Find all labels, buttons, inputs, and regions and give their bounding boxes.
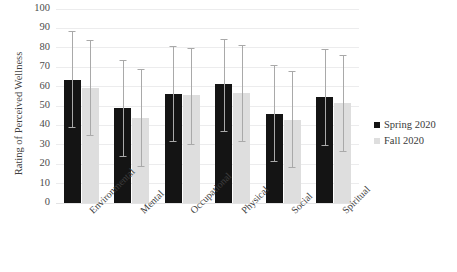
x-axis-label-physical: Physical bbox=[239, 208, 247, 216]
legend-item-spring-2020[interactable]: Spring 2020 bbox=[374, 120, 457, 131]
plot-area bbox=[56, 9, 359, 203]
error-bar-cap-lower bbox=[271, 161, 278, 162]
error-bar-cap-upper bbox=[220, 39, 227, 40]
gridline bbox=[56, 9, 359, 10]
error-bar-cap-upper bbox=[69, 31, 76, 32]
error-bar-cap-lower bbox=[238, 141, 245, 142]
error-bar-cap-lower bbox=[170, 141, 177, 142]
x-axis-label-mental: Mental bbox=[138, 208, 146, 216]
error-bar-line bbox=[90, 40, 91, 136]
chart-legend: Spring 2020Fall 2020 bbox=[374, 120, 457, 151]
x-axis-label-social: Social bbox=[289, 208, 297, 216]
error-bar-spiritual-fall-2020 bbox=[334, 55, 351, 152]
y-axis-tick-label: 0 bbox=[8, 197, 50, 208]
error-bar-line bbox=[173, 46, 174, 142]
error-bar-cap-lower bbox=[289, 167, 296, 168]
error-bar-line bbox=[292, 71, 293, 168]
y-axis-tick-label: 40 bbox=[8, 119, 50, 130]
clipped-chart-title bbox=[0, 0, 457, 3]
legend-swatch-icon bbox=[374, 138, 380, 144]
error-bar-mental-spring-2020 bbox=[114, 60, 131, 157]
error-bar-cap-upper bbox=[238, 45, 245, 46]
y-axis-tick-label: 90 bbox=[8, 22, 50, 33]
error-bar-cap-lower bbox=[321, 145, 328, 146]
error-bar-cap-lower bbox=[87, 135, 94, 136]
gridline bbox=[56, 125, 359, 126]
error-bar-line bbox=[72, 31, 73, 128]
x-axis-label-environmental: Environmental bbox=[87, 208, 95, 216]
legend-label: Fall 2020 bbox=[384, 136, 424, 147]
y-axis-title: Rating of Perceived Wellness bbox=[13, 34, 24, 194]
error-bar-social-spring-2020 bbox=[266, 65, 283, 162]
error-bar-line bbox=[343, 55, 344, 152]
error-bar-occupational-fall-2020 bbox=[183, 48, 200, 145]
error-bar-cap-lower bbox=[339, 151, 346, 152]
error-bar-cap-lower bbox=[188, 144, 195, 145]
error-bar-cap-lower bbox=[69, 127, 76, 128]
error-bar-cap-lower bbox=[119, 156, 126, 157]
legend-item-fall-2020[interactable]: Fall 2020 bbox=[374, 136, 457, 147]
gridline bbox=[56, 28, 359, 29]
y-axis-tick-label: 30 bbox=[8, 139, 50, 150]
y-axis-tick-label: 100 bbox=[8, 3, 50, 14]
x-axis-label-spiritual: Spiritual bbox=[340, 208, 348, 216]
legend-swatch-icon bbox=[374, 122, 380, 128]
error-bar-spiritual-spring-2020 bbox=[316, 49, 333, 146]
x-axis-label-occupational: Occupational bbox=[188, 208, 196, 216]
error-bar-cap-upper bbox=[119, 60, 126, 61]
error-bar-occupational-spring-2020 bbox=[165, 46, 182, 142]
error-bar-physical-fall-2020 bbox=[233, 45, 250, 142]
error-bar-cap-upper bbox=[137, 69, 144, 70]
error-bar-cap-upper bbox=[170, 46, 177, 47]
error-bar-cap-upper bbox=[289, 71, 296, 72]
y-axis-tick-label: 50 bbox=[8, 100, 50, 111]
gridline bbox=[56, 67, 359, 68]
y-axis-tick-label: 80 bbox=[8, 42, 50, 53]
gridline bbox=[56, 106, 359, 107]
error-bar-cap-upper bbox=[87, 40, 94, 41]
gridline bbox=[56, 86, 359, 87]
error-bar-line bbox=[141, 69, 142, 167]
error-bar-line bbox=[242, 45, 243, 142]
gridline bbox=[56, 183, 359, 184]
gridline bbox=[56, 47, 359, 48]
y-axis-tick-label: 10 bbox=[8, 178, 50, 189]
y-axis-tick-label: 20 bbox=[8, 158, 50, 169]
y-axis-tick-label: 70 bbox=[8, 61, 50, 72]
error-bar-line bbox=[191, 48, 192, 145]
legend-label: Spring 2020 bbox=[384, 120, 436, 131]
error-bar-cap-upper bbox=[321, 49, 328, 50]
y-axis-tick-label: 60 bbox=[8, 81, 50, 92]
error-bar-line bbox=[224, 39, 225, 132]
gridline bbox=[56, 144, 359, 145]
chart-container: Rating of Perceived Wellness 10090807060… bbox=[0, 0, 457, 272]
error-bar-line bbox=[274, 65, 275, 162]
error-bar-environmental-fall-2020 bbox=[82, 40, 99, 136]
error-bar-cap-upper bbox=[271, 65, 278, 66]
error-bar-social-fall-2020 bbox=[284, 71, 301, 168]
x-axis-category-labels: EnvironmentalMentalOccupationalPhysicalS… bbox=[56, 205, 359, 272]
error-bar-mental-fall-2020 bbox=[132, 69, 149, 167]
error-bar-cap-lower bbox=[137, 166, 144, 167]
gridline bbox=[56, 164, 359, 165]
error-bar-environmental-spring-2020 bbox=[64, 31, 81, 128]
error-bar-line bbox=[325, 49, 326, 146]
error-bar-cap-lower bbox=[220, 131, 227, 132]
error-bar-cap-upper bbox=[188, 48, 195, 49]
error-bar-line bbox=[123, 60, 124, 157]
error-bar-physical-spring-2020 bbox=[215, 39, 232, 132]
error-bar-cap-upper bbox=[339, 55, 346, 56]
